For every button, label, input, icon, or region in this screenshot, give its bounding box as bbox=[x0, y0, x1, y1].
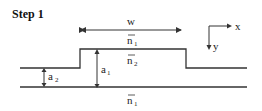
svg-text:2: 2 bbox=[55, 76, 59, 84]
x-axis-label: x bbox=[235, 20, 241, 32]
coordinate-axes: x y bbox=[207, 20, 242, 52]
x-axis-arrow-icon bbox=[227, 24, 232, 29]
a2-dimension: a 2 bbox=[42, 68, 60, 87]
svg-text:n: n bbox=[127, 34, 133, 46]
svg-text:n: n bbox=[127, 54, 133, 66]
svg-text:2: 2 bbox=[134, 60, 138, 68]
svg-text:1: 1 bbox=[107, 69, 111, 77]
svg-text:n: n bbox=[127, 94, 133, 106]
a1-label: a bbox=[101, 63, 106, 75]
a1-dimension: a 1 bbox=[95, 49, 112, 88]
svg-text:1: 1 bbox=[134, 100, 138, 108]
a2-label: a bbox=[48, 70, 53, 82]
step-title: Step 1 bbox=[12, 7, 44, 21]
y-axis-label: y bbox=[213, 40, 219, 52]
rib-waveguide-diagram: Step 1 w n 1 n 2 a 1 a 2 n 1 bbox=[0, 0, 262, 111]
n-core-label: n 2 bbox=[127, 54, 138, 68]
svg-text:1: 1 bbox=[134, 40, 138, 48]
n-lower-label: n 1 bbox=[127, 94, 138, 108]
width-label: w bbox=[127, 15, 135, 27]
y-axis-arrow-icon bbox=[207, 45, 212, 50]
width-arrow-left-head bbox=[80, 27, 86, 33]
n-upper-label: n 1 bbox=[127, 34, 138, 48]
